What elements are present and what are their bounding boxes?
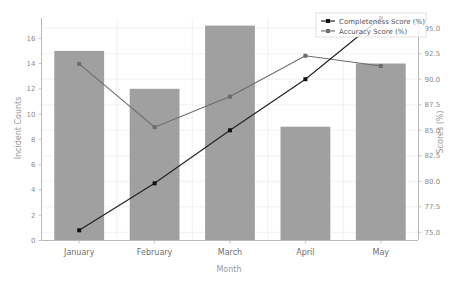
legend-marker-completeness [326,19,330,23]
svg-text:77.5: 77.5 [425,203,441,211]
svg-text:16: 16 [27,35,36,43]
svg-text:6: 6 [31,161,36,169]
svg-text:May: May [373,248,390,257]
svg-text:14: 14 [27,60,36,68]
chart-legend[interactable]: Completeness Score (%) Accuracy Score (%… [316,13,426,37]
svg-text:February: February [137,248,173,257]
svg-text:4: 4 [31,186,36,194]
svg-text:75.0: 75.0 [425,229,441,237]
svg-text:80.0: 80.0 [425,178,441,186]
svg-text:95.0: 95.0 [425,25,441,33]
svg-text:0: 0 [31,237,35,245]
svg-text:87.5: 87.5 [425,101,441,109]
legend-label-completeness: Completeness Score (%) [339,18,425,26]
svg-text:92.5: 92.5 [425,50,441,58]
y-axis-left-title: Incident Counts [14,97,23,160]
chart-container: 0246810121416 75.077.580.082.585.087.590… [0,0,460,285]
legend-marker-accuracy [326,29,330,33]
svg-text:8: 8 [31,136,35,144]
svg-text:2: 2 [31,212,35,220]
dual-axis-chart: 0246810121416 75.077.580.082.585.087.590… [0,0,460,285]
y-axis-right-title: Scores (%) [436,111,445,154]
legend-label-accuracy: Accuracy Score (%) [339,28,407,36]
svg-text:January: January [63,248,95,257]
svg-text:90.0: 90.0 [425,76,441,84]
svg-text:10: 10 [27,111,36,119]
svg-text:12: 12 [27,85,36,93]
svg-text:April: April [296,248,314,257]
svg-text:March: March [218,248,242,257]
x-axis-title: Month [216,265,241,274]
